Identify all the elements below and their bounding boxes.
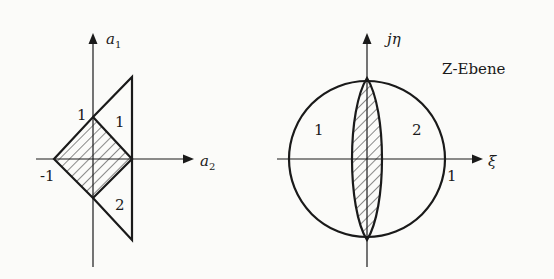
arrow-right-icon <box>472 155 483 164</box>
axis-xi-label: ξ <box>488 152 497 170</box>
tick-label-right: 1 <box>447 167 457 185</box>
left-diagram: a1 a2 1 -1 1 2 <box>36 30 215 267</box>
right-diagram: jη ξ Z-Ebene 1 1 2 <box>277 30 506 267</box>
tick-label-top: 1 <box>77 106 87 124</box>
axis-a2-label: a2 <box>200 152 215 172</box>
arrow-right-icon <box>183 155 194 164</box>
region-label-1: 1 <box>314 121 324 139</box>
region-label-2: 2 <box>412 121 422 139</box>
tick-label-left: -1 <box>40 167 55 185</box>
region-label-1: 1 <box>115 113 125 131</box>
plane-title: Z-Ebene <box>442 60 506 78</box>
hatched-region-lens <box>340 70 400 250</box>
arrow-up-icon <box>363 33 372 44</box>
axis-a1-label: a1 <box>106 30 121 50</box>
arrow-up-icon <box>89 33 98 44</box>
axis-jeta-label: jη <box>384 30 401 48</box>
diagram-canvas: a1 a2 1 -1 1 2 jη ξ Z-Ebene 1 1 2 <box>0 0 554 279</box>
region-label-2: 2 <box>115 196 125 214</box>
